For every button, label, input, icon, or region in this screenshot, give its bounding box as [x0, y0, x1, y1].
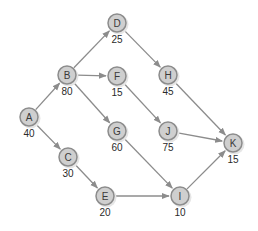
edge-i-to-k [187, 151, 225, 189]
edge-b-to-d [74, 31, 110, 68]
node-label: I [179, 191, 182, 202]
node-b: B80 [58, 66, 79, 97]
node-label: G [113, 126, 121, 137]
node-value: 15 [111, 87, 123, 98]
node-value: 45 [162, 86, 174, 97]
node-label: J [166, 126, 171, 137]
node-h: H45 [159, 66, 180, 97]
node-value: 10 [174, 207, 186, 218]
node-value: 20 [99, 207, 111, 218]
node-value: 25 [111, 34, 123, 45]
edge-c-to-e [75, 164, 98, 188]
edge-d-to-h [124, 30, 160, 67]
node-label: D [113, 18, 120, 29]
node-i: I10 [171, 187, 192, 218]
edge-j-to-k [178, 133, 222, 141]
edge-b-to-f [77, 75, 106, 76]
node-value: 15 [227, 154, 239, 165]
edge-a-to-c [36, 124, 60, 149]
network-diagram: A40B80C30D25E20F15G60H45I10J75K15 [0, 0, 258, 231]
node-e: E20 [96, 187, 117, 218]
node-label: K [230, 138, 237, 149]
node-k: K15 [224, 134, 245, 165]
node-value: 80 [61, 86, 73, 97]
node-f: F15 [108, 67, 129, 98]
node-c: C30 [59, 148, 80, 179]
node-value: 60 [111, 142, 123, 153]
edge-a-to-b [36, 83, 60, 109]
node-label: E [102, 191, 109, 202]
node-g: G60 [108, 122, 129, 153]
node-d: D25 [108, 14, 129, 45]
edge-b-to-g [74, 83, 110, 123]
node-label: H [164, 70, 171, 81]
node-label: F [114, 71, 120, 82]
node-j: J75 [159, 122, 180, 153]
node-label: A [26, 112, 33, 123]
node-label: B [64, 70, 71, 81]
node-value: 40 [23, 128, 35, 139]
edge-h-to-k [175, 82, 226, 135]
node-value: 30 [62, 168, 74, 179]
node-label: C [64, 152, 71, 163]
edge-f-to-j [124, 83, 161, 123]
nodes-layer: A40B80C30D25E20F15G60H45I10J75K15 [20, 14, 245, 218]
node-value: 75 [162, 142, 174, 153]
node-a: A40 [20, 108, 41, 139]
